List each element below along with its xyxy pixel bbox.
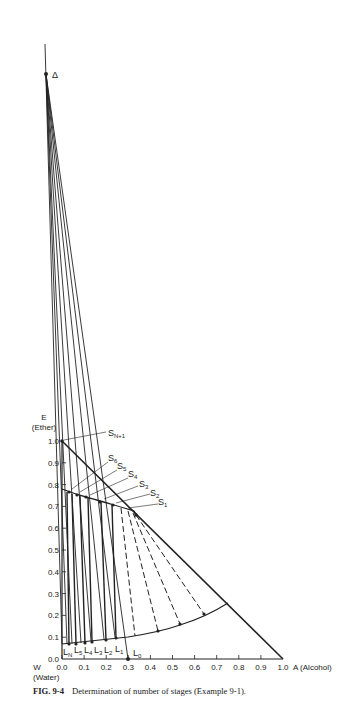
y-tick-3: 0.3 (48, 590, 60, 599)
label-s5: S5 (117, 461, 127, 472)
x-tick-5: 0.5 (167, 663, 179, 672)
origin-name-sub: (Water) (33, 673, 60, 682)
x-tick-4: 0.4 (145, 663, 157, 672)
caption-number: FIG. 9-4 (33, 686, 64, 696)
x-tick-8: 0.8 (233, 663, 245, 672)
label-s4: S4 (128, 469, 138, 480)
x-tick-2: 0.2 (101, 663, 113, 672)
x-axis-name: A (Alcohol) (293, 663, 332, 672)
x-tick-labels: 0.0 0.1 0.2 0.3 0.4 0.5 0.6 0.7 0.8 0.9 … (56, 663, 289, 672)
y-tick-1: 0.1 (48, 633, 60, 642)
label-l2: L2 (104, 645, 113, 656)
x-tick-7: 0.7 (211, 663, 223, 672)
y-tick-5: 0.5 (48, 546, 60, 555)
origin-name: W (33, 663, 41, 672)
y-tick-labels: 0.0 0.1 0.2 0.3 0.4 0.5 0.6 0.7 0.8 0.9 … (48, 437, 60, 664)
raffinate-labels: LN L5 L4 L3 L2 L1 L0 (63, 644, 142, 659)
y-axis-name: E (41, 413, 46, 422)
label-l1: L1 (115, 644, 124, 655)
label-ln: LN (63, 647, 72, 658)
figure-caption: FIG. 9-4Determination of number of stage… (33, 686, 343, 696)
label-s-n1: SN+1 (108, 428, 126, 439)
diagram-canvas: 0.0 0.1 0.2 0.3 0.4 0.5 0.6 0.7 0.8 0.9 … (0, 0, 348, 724)
dashed-tie-lines (121, 508, 204, 636)
x-tick-1: 0.1 (79, 663, 91, 672)
label-s1: S1 (158, 497, 168, 508)
label-l0: L0 (133, 648, 142, 659)
label-l3: L3 (94, 645, 103, 656)
label-s3: S3 (139, 479, 149, 490)
x-tick-9: 0.9 (255, 663, 267, 672)
label-l5: L5 (74, 645, 83, 656)
y-tick-2: 0.2 (48, 611, 60, 620)
raffinate-curve (62, 603, 228, 644)
x-tick-0: 0.0 (56, 663, 68, 672)
y-tick-6: 0.6 (48, 524, 60, 533)
s-leader-lines (64, 432, 158, 508)
y-tick-10: 1.0 (48, 437, 60, 446)
ternary-diagram: 0.0 0.1 0.2 0.3 0.4 0.5 0.6 0.7 0.8 0.9 … (0, 0, 348, 724)
delta-point (44, 72, 48, 76)
y-axis-name-sub: (Ether) (32, 423, 57, 432)
x-tick-10: 1.0 (277, 663, 289, 672)
y-tick-9: 0.9 (48, 459, 60, 468)
delta-operating-lines (45, 44, 128, 659)
y-tick-4: 0.4 (48, 568, 60, 577)
label-l4: L4 (84, 645, 93, 656)
x-tick-6: 0.6 (189, 663, 201, 672)
delta-label: Δ (52, 70, 58, 80)
x-tick-3: 0.3 (123, 663, 135, 672)
caption-text: Determination of number of stages (Examp… (72, 686, 246, 696)
